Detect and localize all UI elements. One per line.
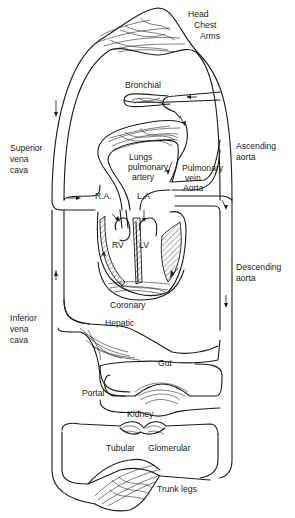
label-trunk-legs: Trunk legs xyxy=(157,484,197,495)
kidney-system xyxy=(62,422,218,484)
label-chest: Chest xyxy=(194,20,216,31)
label-tubular: Tubular xyxy=(106,443,135,454)
heart xyxy=(97,210,186,296)
hepatic-portal-system xyxy=(58,300,222,416)
bronchial-vessel xyxy=(124,92,220,118)
label-ascending-aorta-2: aorta xyxy=(236,152,256,163)
label-superior-vena-cava: Superior xyxy=(10,143,42,154)
label-right-atrium: R.A. xyxy=(95,191,112,202)
label-left-atrium: L.A xyxy=(137,191,150,202)
label-inferior-vena-cava-2: vena xyxy=(10,324,29,335)
label-hepatic: Hepatic xyxy=(105,318,134,329)
label-glomerular: Glomerular xyxy=(148,443,191,454)
label-coronary: Coronary xyxy=(110,300,145,311)
label-artery: artery xyxy=(132,172,154,183)
label-superior-vena-cava-2: vena xyxy=(10,154,29,165)
circulation-diagram xyxy=(0,0,295,518)
label-portal: Portal xyxy=(82,388,104,399)
label-inferior-vena-cava: Inferior xyxy=(10,313,37,324)
label-pulmonary-vein: Pulmonary xyxy=(182,163,223,174)
label-gut: Gut xyxy=(158,358,172,369)
label-head: Head xyxy=(188,9,209,20)
label-descending-aorta-2: aorta xyxy=(236,273,256,284)
label-arms: Arms xyxy=(200,31,220,42)
label-inferior-vena-cava-3: cava xyxy=(10,335,28,346)
label-right-ventricle: RV xyxy=(112,240,124,251)
label-pulmonary-artery: pulmonary xyxy=(128,162,168,173)
trunk-legs-capillaries xyxy=(88,459,160,510)
label-superior-vena-cava-3: cava xyxy=(10,165,28,176)
head-chest-arms-capillaries xyxy=(98,18,185,52)
label-vein: vein xyxy=(185,173,201,184)
label-descending-aorta: Descending xyxy=(236,262,281,273)
label-ascending-aorta: Ascending xyxy=(236,141,276,152)
label-lungs: Lungs xyxy=(129,152,152,163)
label-bronchial: Bronchial xyxy=(125,80,161,91)
label-aorta: Aorta xyxy=(183,183,204,194)
label-left-ventricle: LV xyxy=(139,240,149,251)
label-kidney: Kidney xyxy=(127,409,153,420)
